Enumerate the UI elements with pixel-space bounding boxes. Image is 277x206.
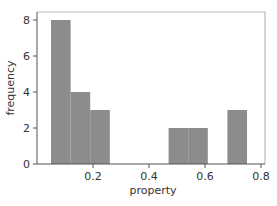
y-axis-label: frequency: [4, 60, 17, 116]
histogram-bar: [90, 110, 110, 164]
histogram-chart: 0.20.40.60.8 02468 property frequency: [0, 0, 277, 206]
y-tick-label: 0: [23, 158, 30, 171]
x-axis-ticks: 0.20.40.60.8: [84, 164, 270, 183]
histogram-bar: [169, 128, 189, 164]
histogram-bar: [227, 110, 247, 164]
x-axis-label: property: [129, 184, 177, 197]
y-tick-label: 8: [23, 14, 30, 27]
y-axis-ticks: 02468: [23, 14, 37, 171]
x-tick-label: 0.8: [252, 170, 270, 183]
y-tick-label: 4: [23, 86, 30, 99]
x-tick-label: 0.4: [140, 170, 158, 183]
histogram-bars: [51, 20, 247, 164]
histogram-bar: [188, 128, 208, 164]
histogram-bar: [51, 20, 71, 164]
histogram-bar: [71, 92, 91, 164]
y-tick-label: 6: [23, 50, 30, 63]
y-tick-label: 2: [23, 122, 30, 135]
x-tick-label: 0.2: [84, 170, 102, 183]
x-tick-label: 0.6: [196, 170, 214, 183]
